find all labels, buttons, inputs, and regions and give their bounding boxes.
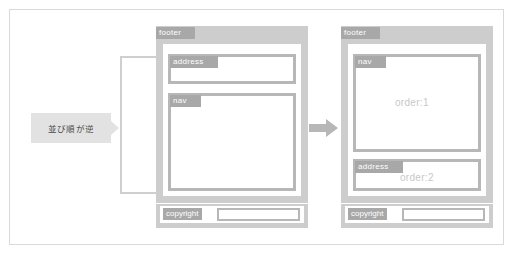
diagram-canvas: 並び順が逆 footer address nav copyright foote… <box>0 0 515 256</box>
before-nav-box <box>168 93 296 191</box>
before-nav-tag: nav <box>170 95 201 107</box>
after-address-tag: address <box>355 161 403 173</box>
triangle-right-icon <box>111 121 119 135</box>
note-callout-label: 並び順が逆 <box>31 113 111 143</box>
after-footer-tag: footer <box>341 27 380 39</box>
before-footer-tag: footer <box>156 27 195 39</box>
before-address-tag: address <box>170 56 218 68</box>
before-copyright-tag: copyright <box>163 208 202 220</box>
before-copyright-field <box>217 208 300 221</box>
grouping-bracket <box>120 56 160 194</box>
after-copyright-field <box>402 208 485 221</box>
after-nav-order-text: order:1 <box>395 97 429 108</box>
note-callout: 並び順が逆 <box>31 113 111 143</box>
after-nav-tag: nav <box>355 56 386 68</box>
after-copyright-tag: copyright <box>348 208 387 220</box>
arrow-right-icon <box>309 118 339 138</box>
after-address-order-text: order:2 <box>400 172 434 183</box>
